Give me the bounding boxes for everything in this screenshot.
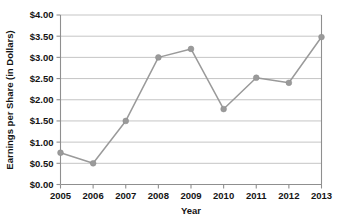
x-axis-tick-label: 2009 [180,190,201,201]
data-point-marker: 2012: $2.40 [286,80,292,86]
y-axis-tick-label: $2.00 [30,94,54,105]
x-axis-tick-labels-group: 200520062007200820092010201120122013 [50,190,332,201]
chart-container: $0.00$0.50$1.00$1.50$2.00$2.50$3.00$3.50… [0,0,341,218]
earnings-per-share-line-chart: $0.00$0.50$1.00$1.50$2.00$2.50$3.00$3.50… [0,0,341,218]
data-point-marker: 2013: $3.48 [319,34,325,40]
x-axis-tick-label: 2008 [148,190,169,201]
x-axis-tick-label: 2013 [311,190,332,201]
x-axis-tick-label: 2007 [115,190,136,201]
data-point-marker: 2007: $1.50 [123,118,129,124]
data-point-marker: 2005: $0.75 [58,150,64,156]
y-axis-tick-label: $2.50 [30,73,54,84]
y-axis-tick-label: $1.00 [30,137,54,148]
x-axis-tick-label: 2011 [246,190,267,201]
x-axis-title: Year [181,205,201,216]
y-axis-tick-label: $1.50 [30,115,54,126]
data-point-marker: 2006: $0.50 [90,160,96,166]
y-axis-tick-label: $0.00 [30,179,54,190]
data-point-marker: 2011: $2.52 [253,75,259,81]
x-axis-tick-label: 2006 [83,190,104,201]
x-axis-tick-label: 2012 [278,190,299,201]
x-axis-tick-label: 2005 [50,190,72,201]
y-axis-tick-labels-group: $0.00$0.50$1.00$1.50$2.00$2.50$3.00$3.50… [30,9,54,190]
x-axis-tick-label: 2010 [213,190,234,201]
data-point-marker: 2010: $1.78 [221,106,227,112]
y-axis-tick-label: $3.00 [30,52,54,63]
y-axis-tick-label: $4.00 [30,9,54,20]
y-axis-tick-label: $3.50 [30,31,54,42]
data-point-marker: 2009: $3.20 [188,46,194,52]
y-axis-tick-label: $0.50 [30,158,54,169]
y-axis-title: Earnings per Share (in Dollars) [4,30,15,169]
data-point-marker: 2008: $3.00 [155,54,161,60]
